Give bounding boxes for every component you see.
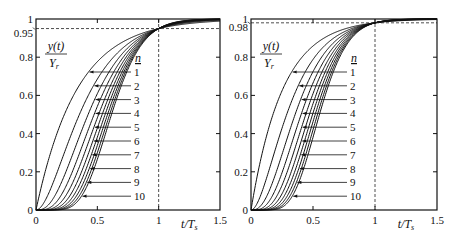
arrowhead-icon xyxy=(293,70,297,73)
svg-text:y(t): y(t) xyxy=(47,39,65,53)
svg-text:Yr: Yr xyxy=(49,56,60,71)
legend-label-n-6: 6 xyxy=(350,135,356,147)
arrowhead-icon xyxy=(303,112,307,115)
panel-left-95-percent: 00.511.500.20.40.60.80.951y(t)Yrt/Tsn123… xyxy=(14,13,228,232)
x-tick-label: 1 xyxy=(156,214,162,226)
legend-arrow-n-8 xyxy=(90,167,131,170)
arrowhead-icon xyxy=(96,98,100,101)
y-tick-label: 1 xyxy=(243,13,249,25)
arrowhead-icon xyxy=(82,195,86,198)
y-tick-label: 0 xyxy=(28,204,34,216)
svg-text:y(t): y(t) xyxy=(262,39,280,53)
arrowhead-icon xyxy=(302,98,306,101)
legend-label-n-2: 2 xyxy=(350,80,356,92)
legend-title: n xyxy=(135,51,141,65)
y-tick-label: 0 xyxy=(243,204,249,216)
x-tick-label: 0 xyxy=(248,214,254,226)
arrowhead-icon xyxy=(299,84,303,87)
legend-label-n-10: 10 xyxy=(134,190,146,202)
x-tick-label: 1.5 xyxy=(430,214,444,226)
panel-right-98-percent: 00.511.500.20.40.60.80.981y(t)Yrt/Tsn123… xyxy=(229,13,445,232)
arrowhead-icon xyxy=(293,195,297,198)
legend-label-n-8: 8 xyxy=(350,163,356,175)
svg-text:Yr: Yr xyxy=(264,56,275,71)
legend-label-n-8: 8 xyxy=(134,163,140,175)
x-tick-label: 0.5 xyxy=(90,214,104,226)
legend-label-n-7: 7 xyxy=(134,149,140,161)
y-axis-label: y(t)Yr xyxy=(45,39,67,71)
legend-arrow-n-10 xyxy=(293,195,347,198)
y-axis-label: y(t)Yr xyxy=(260,39,282,71)
y-tick-label: 0.2 xyxy=(234,166,248,178)
y-tick-label: 0.6 xyxy=(234,89,248,101)
legend-label-n-5: 5 xyxy=(134,121,140,133)
legend-arrow-n-9 xyxy=(297,181,347,184)
legend-arrow-n-9 xyxy=(87,181,131,184)
legend-label-n-1: 1 xyxy=(134,66,140,78)
settling-level-leader xyxy=(248,22,250,24)
legend-arrow-n-4 xyxy=(96,112,131,115)
settling-level-leader xyxy=(33,28,35,30)
y-tick-label: 0.6 xyxy=(19,89,33,101)
legend-arrow-n-10 xyxy=(82,195,131,198)
legend-title: n xyxy=(351,51,357,65)
legend-label-n-2: 2 xyxy=(134,80,140,92)
legend-label-n-4: 4 xyxy=(350,107,356,119)
x-tick-label: 0.5 xyxy=(306,214,320,226)
legend-label-n-6: 6 xyxy=(134,135,140,147)
legend-label-n-9: 9 xyxy=(134,176,140,188)
x-axis-label: t/Ts xyxy=(181,217,197,232)
x-tick-label: 0 xyxy=(33,214,39,226)
legend-label-n-3: 3 xyxy=(350,94,356,106)
y-tick-label: 0.4 xyxy=(234,128,248,140)
legend-arrow-n-6 xyxy=(302,139,347,142)
legend-label-n-3: 3 xyxy=(134,94,140,106)
legend-label-n-9: 9 xyxy=(350,176,356,188)
arrowhead-icon xyxy=(94,84,98,87)
y-tick-label: 0.4 xyxy=(19,128,33,140)
x-tick-label: 1 xyxy=(372,214,378,226)
legend-label-n-5: 5 xyxy=(350,121,356,133)
legend-arrow-n-1 xyxy=(293,70,347,73)
arrowhead-icon xyxy=(96,112,100,115)
y-tick-label: 0.2 xyxy=(19,166,33,178)
legend-label-n-1: 1 xyxy=(350,66,356,78)
legend-label-n-10: 10 xyxy=(350,190,362,202)
y-tick-label: 0.8 xyxy=(234,51,248,63)
x-axis-label: t/Ts xyxy=(398,217,414,232)
step-response-figure: 00.511.500.20.40.60.80.951y(t)Yrt/Tsn123… xyxy=(0,0,460,240)
legend-label-n-4: 4 xyxy=(134,107,140,119)
settling-level-label: 0.95 xyxy=(14,27,34,39)
y-tick-label: 0.8 xyxy=(19,51,33,63)
x-tick-label: 1.5 xyxy=(213,214,227,226)
legend-label-n-7: 7 xyxy=(350,149,356,161)
legend-arrow-n-8 xyxy=(300,167,347,170)
y-tick-label: 1 xyxy=(28,13,34,25)
arrowhead-icon xyxy=(89,70,93,73)
